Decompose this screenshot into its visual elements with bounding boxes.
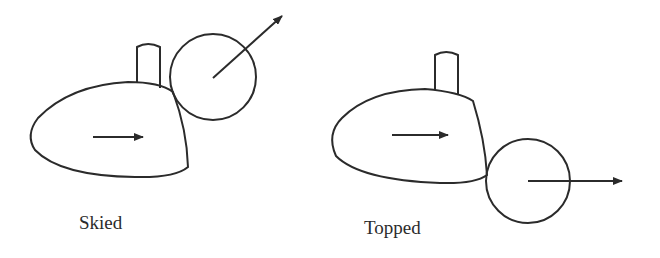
caption-skied: Skied (79, 212, 122, 234)
club-head (332, 89, 487, 183)
figure-skied (31, 16, 282, 177)
club-hosel (435, 52, 458, 94)
club-hosel (137, 44, 160, 88)
club-head (31, 82, 188, 177)
ball-trajectory-arrow-icon (213, 16, 282, 78)
figure-topped (332, 52, 622, 223)
caption-topped: Topped (364, 217, 421, 239)
